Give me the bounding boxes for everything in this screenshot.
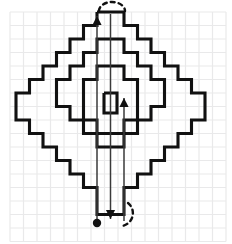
start-dot <box>93 219 101 227</box>
figure-canvas <box>0 0 232 244</box>
dashed-arc-top <box>99 2 125 11</box>
diamond-staircase-figure <box>0 0 232 244</box>
grid-background <box>10 12 226 242</box>
arrow-up-left-head <box>92 16 101 25</box>
arrow-up-right-head <box>119 98 128 107</box>
